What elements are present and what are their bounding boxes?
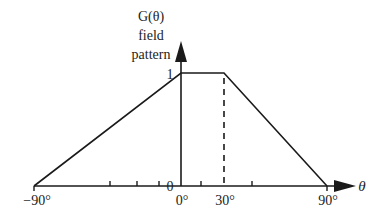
x-axis-label: θ [358, 178, 366, 194]
x-axis-arrow-icon [334, 180, 356, 192]
x-tick-label-minus90: −90° [23, 193, 51, 208]
y-axis-label-line3: pattern [132, 47, 171, 62]
y-tick-label-one: 1 [167, 67, 174, 82]
x-tick-label-0: 0° [176, 193, 189, 208]
y-tick-label-zero: 0 [167, 179, 174, 194]
x-tick-label-90: 90° [318, 193, 338, 208]
y-axis-arrow-icon [175, 41, 187, 62]
field-pattern-diagram: G(θ) field pattern 1 0 −90° 0° 30° 90° θ [0, 0, 384, 222]
x-tick-label-30: 30° [215, 193, 235, 208]
y-axis-label-line1: G(θ) [138, 9, 164, 25]
y-axis-label-line2: field [138, 28, 164, 43]
